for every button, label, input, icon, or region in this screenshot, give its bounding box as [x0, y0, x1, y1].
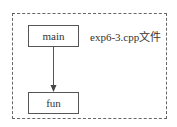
node-fun-label: fun [46, 97, 61, 109]
arrowhead-icon [51, 85, 57, 92]
node-fun: fun [28, 92, 79, 114]
edge-main-to-fun [0, 0, 177, 127]
